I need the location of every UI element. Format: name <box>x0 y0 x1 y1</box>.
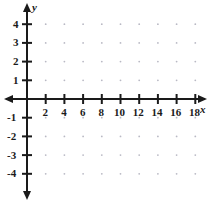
grid-dot <box>101 154 103 156</box>
grid-dot <box>101 173 103 175</box>
grid-dot <box>176 136 178 138</box>
grid-dot <box>157 42 159 44</box>
grid-dot <box>138 79 140 81</box>
grid-dot <box>101 79 103 81</box>
grid-dot <box>82 136 84 138</box>
grid-dot <box>138 42 140 44</box>
y-axis-down-arrowhead <box>23 191 31 200</box>
y-tick-label: -1 <box>7 112 16 123</box>
grid-dot <box>45 42 47 44</box>
grid-dot <box>120 79 122 81</box>
grid-dot <box>82 61 84 63</box>
grid-dot <box>194 173 196 175</box>
grid-dot <box>64 23 66 25</box>
grid-dot <box>194 79 196 81</box>
y-tick-label: 1 <box>13 75 19 86</box>
grid-dot <box>64 42 66 44</box>
x-axis-right-arrowhead <box>198 95 207 103</box>
y-axis-label: y <box>32 2 37 13</box>
grid-dot <box>64 79 66 81</box>
grid-dot <box>157 79 159 81</box>
grid-dot <box>64 136 66 138</box>
grid-dot <box>138 136 140 138</box>
grid-dot <box>176 61 178 63</box>
y-tick-label: 4 <box>13 19 19 30</box>
grid-dot <box>157 61 159 63</box>
grid-dot <box>120 173 122 175</box>
grid-dot <box>82 42 84 44</box>
grid-dot <box>138 61 140 63</box>
y-tick-label: -3 <box>7 150 16 161</box>
grid-dot <box>138 154 140 156</box>
grid-dot <box>120 23 122 25</box>
y-tick-label: 3 <box>13 37 19 48</box>
grid-dot <box>120 42 122 44</box>
grid-dot <box>101 42 103 44</box>
grid-dot <box>64 61 66 63</box>
grid-dot <box>101 136 103 138</box>
x-tick-label: 18 <box>189 107 200 118</box>
x-axis-label: x <box>200 104 206 115</box>
grid-dot <box>157 154 159 156</box>
grid-dot <box>194 23 196 25</box>
grid-dot <box>45 79 47 81</box>
grid-dot <box>138 173 140 175</box>
y-tick-label: 2 <box>13 56 19 67</box>
grid-dot <box>82 79 84 81</box>
grid-dot <box>101 61 103 63</box>
grid-dot <box>45 154 47 156</box>
x-tick-label: 8 <box>99 107 105 118</box>
x-tick-label: 6 <box>80 107 86 118</box>
grid-dot <box>64 173 66 175</box>
x-tick-label: 14 <box>152 107 163 118</box>
grid-dot <box>138 23 140 25</box>
x-tick-label: 12 <box>133 107 144 118</box>
grid-dot <box>194 136 196 138</box>
grid-dot <box>176 23 178 25</box>
grid-dot <box>194 42 196 44</box>
x-tick-label: 16 <box>170 107 181 118</box>
grid-dot <box>120 154 122 156</box>
grid-dot <box>82 23 84 25</box>
coordinate-plane-svg <box>0 0 211 203</box>
grid-dot <box>64 154 66 156</box>
grid-dot <box>120 61 122 63</box>
grid-dot <box>82 173 84 175</box>
grid-dot <box>157 23 159 25</box>
x-tick-label: 10 <box>114 107 125 118</box>
grid-dot <box>194 154 196 156</box>
y-axis-up-arrowhead <box>23 3 31 12</box>
grid-dot <box>45 173 47 175</box>
grid-dot <box>157 136 159 138</box>
x-axis-left-arrowhead <box>4 95 13 103</box>
grid-dot <box>176 79 178 81</box>
grid-dot <box>194 61 196 63</box>
grid-dot <box>120 136 122 138</box>
y-tick-label: -2 <box>7 131 16 142</box>
grid-dot <box>157 173 159 175</box>
coordinate-plane-figure: 24681012141618 4321-1-2-3-4 x y <box>0 0 211 203</box>
grid-dot <box>176 173 178 175</box>
grid-dot <box>176 154 178 156</box>
grid-dot <box>176 42 178 44</box>
grid-dot <box>45 23 47 25</box>
y-tick-label: -4 <box>7 168 16 179</box>
grid-dot <box>101 23 103 25</box>
x-tick-label: 2 <box>43 107 49 118</box>
grid-dot <box>45 136 47 138</box>
grid-dot <box>45 61 47 63</box>
x-tick-label: 4 <box>61 107 67 118</box>
grid-dot <box>82 154 84 156</box>
